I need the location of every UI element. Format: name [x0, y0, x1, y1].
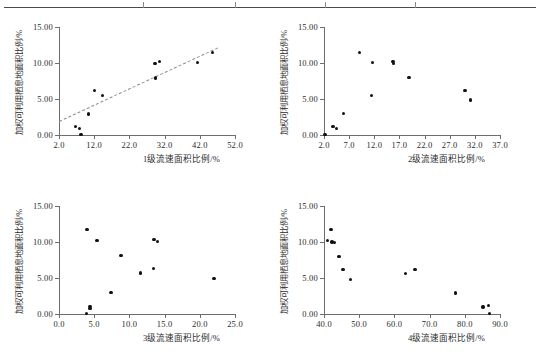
data-point — [413, 268, 416, 271]
data-point — [454, 291, 457, 294]
data-point — [349, 278, 352, 281]
data-point — [337, 255, 340, 258]
x-axis-tick-label: 40.0 — [307, 320, 341, 329]
x-axis-tick-label: 70.0 — [413, 320, 447, 329]
x-axis-tick — [465, 314, 466, 318]
x-axis-tick — [359, 314, 360, 318]
data-point — [329, 228, 332, 231]
scatter-panel-4: 0.005.0010.0015.0040.050.060.070.080.090… — [0, 0, 540, 359]
y-axis-tick — [320, 206, 324, 207]
x-axis-tick — [430, 314, 431, 318]
x-axis-tick — [394, 314, 395, 318]
x-axis-tick-label: 90.0 — [483, 320, 517, 329]
x-axis-line — [324, 314, 500, 315]
figure-container: 0.005.0010.0015.002.012.022.032.042.052.… — [0, 0, 540, 359]
data-point — [333, 241, 336, 244]
x-axis-tick-label: 50.0 — [342, 320, 376, 329]
x-axis-tick — [324, 314, 325, 318]
data-point — [481, 305, 484, 308]
y-axis-label: 加权可利用栖息地面积比例/% — [281, 209, 289, 314]
y-axis-line — [324, 206, 325, 314]
x-axis-label: 4级流速面积比例/% — [408, 334, 485, 343]
data-point — [404, 272, 407, 275]
data-point — [487, 304, 490, 307]
data-point — [341, 268, 344, 271]
y-axis-tick — [320, 242, 324, 243]
x-axis-tick-label: 80.0 — [448, 320, 482, 329]
data-point — [326, 239, 329, 242]
x-axis-tick — [500, 314, 501, 318]
x-axis-tick-label: 60.0 — [377, 320, 411, 329]
y-axis-tick — [320, 278, 324, 279]
